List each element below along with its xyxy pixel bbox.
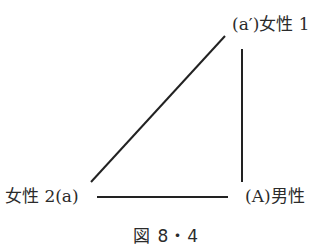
node-a-female-2: 女性 2(a) — [5, 186, 79, 206]
triangle-edges — [0, 0, 330, 251]
figure-caption: 図 8・4 — [133, 226, 199, 246]
node-a-prime-female-1: (a′)女性 1 — [232, 14, 309, 34]
node-A-male: (A)男性 — [245, 186, 305, 206]
edge-a-to-a-prime — [91, 36, 225, 182]
